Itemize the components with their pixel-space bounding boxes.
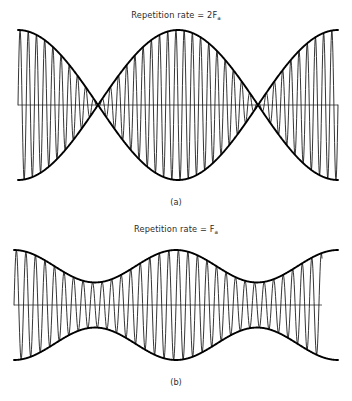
figure-root: Repetition rate = 2Fa (a) Repetition rat… bbox=[0, 0, 352, 401]
panel-a-caption: (a) bbox=[0, 198, 352, 206]
panel-b-caption: (b) bbox=[0, 378, 352, 386]
panel-a-title: Repetition rate = 2Fa bbox=[0, 11, 352, 20]
panel-b-title-text: Repetition rate = F bbox=[134, 224, 215, 234]
envelope-lower-b bbox=[14, 328, 338, 360]
waveform-b-plot bbox=[0, 238, 352, 372]
panel-a-title-subscript: a bbox=[217, 15, 220, 21]
panel-a-title-text: Repetition rate = 2F bbox=[131, 10, 217, 20]
panel-b: Repetition rate = Fa (b) bbox=[0, 216, 352, 401]
panel-b-title: Repetition rate = Fa bbox=[0, 225, 352, 234]
envelope-upper-b bbox=[14, 250, 338, 282]
waveform-a-plot bbox=[0, 22, 352, 192]
panel-a: Repetition rate = 2Fa (a) bbox=[0, 0, 352, 216]
panel-b-title-subscript: a bbox=[215, 229, 218, 235]
